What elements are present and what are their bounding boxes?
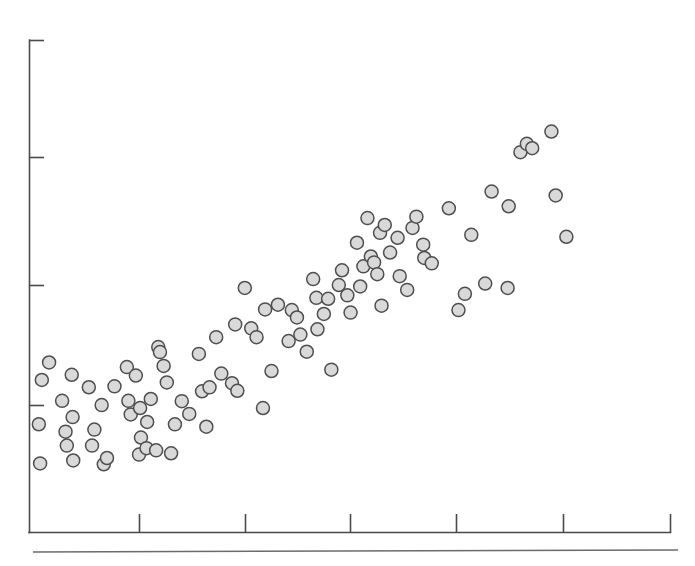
data-point	[65, 368, 78, 381]
x-tick-group	[140, 514, 671, 533]
data-point	[354, 280, 367, 293]
data-point	[336, 264, 349, 277]
data-point	[157, 359, 170, 372]
data-point	[425, 257, 438, 270]
data-point	[300, 345, 313, 358]
data-point	[393, 270, 406, 283]
data-point	[307, 273, 320, 286]
data-point	[108, 380, 121, 393]
data-point	[66, 411, 79, 424]
data-point	[141, 415, 154, 428]
data-point	[344, 306, 357, 319]
data-point	[168, 418, 181, 431]
data-point	[391, 231, 404, 244]
data-point	[59, 425, 72, 438]
data-point	[465, 228, 478, 241]
data-point	[442, 202, 455, 215]
data-point	[371, 268, 384, 281]
data-point	[192, 347, 205, 360]
data-point	[231, 384, 244, 397]
y-tick-group	[30, 41, 45, 406]
data-point	[67, 454, 80, 467]
data-point	[545, 125, 558, 138]
data-point	[122, 394, 135, 407]
data-point	[384, 246, 397, 259]
data-point	[56, 394, 69, 407]
data-point	[129, 369, 142, 382]
data-point	[86, 439, 99, 452]
data-point	[368, 256, 381, 269]
data-point	[417, 238, 430, 251]
data-point	[203, 381, 216, 394]
data-point	[229, 318, 242, 331]
data-point	[210, 331, 223, 344]
data-point	[485, 185, 498, 198]
data-point	[317, 307, 330, 320]
data-point	[215, 367, 228, 380]
data-point	[144, 392, 157, 405]
data-point	[82, 381, 95, 394]
data-point	[256, 402, 269, 415]
axes-group	[29, 40, 671, 533]
data-point	[502, 200, 515, 213]
data-point	[375, 299, 388, 312]
data-point	[310, 291, 323, 304]
data-point	[250, 331, 263, 344]
data-point	[150, 444, 163, 457]
data-point	[100, 452, 113, 465]
data-point	[95, 399, 108, 412]
data-point	[378, 218, 391, 231]
data-point	[153, 346, 166, 359]
data-point	[325, 363, 338, 376]
data-point	[294, 328, 307, 341]
data-point	[526, 142, 539, 155]
data-point	[165, 447, 178, 460]
data-point	[238, 281, 251, 294]
data-point	[322, 292, 335, 305]
data-point	[501, 281, 514, 294]
data-point	[60, 439, 73, 452]
data-point	[32, 418, 45, 431]
data-point	[361, 212, 374, 225]
baseline-rule	[33, 550, 678, 552]
data-point	[160, 376, 173, 389]
data-point	[350, 236, 363, 249]
data-point	[479, 277, 492, 290]
data-point-group	[32, 125, 573, 471]
data-point	[265, 365, 278, 378]
plot-canvas	[0, 0, 695, 566]
data-point	[175, 395, 188, 408]
data-point	[341, 289, 354, 302]
data-point	[271, 298, 284, 311]
data-point	[560, 230, 573, 243]
data-point	[43, 356, 56, 369]
data-point	[183, 407, 196, 420]
data-point	[410, 210, 423, 223]
scatter-plot-figure	[0, 0, 695, 566]
data-point	[549, 189, 562, 202]
data-point	[458, 287, 471, 300]
data-point	[259, 303, 272, 316]
data-point	[452, 304, 465, 317]
data-point	[88, 423, 101, 436]
data-point	[35, 373, 48, 386]
data-point	[401, 283, 414, 296]
data-point	[311, 323, 324, 336]
data-point	[290, 311, 303, 324]
data-point	[282, 335, 295, 348]
data-point	[200, 420, 213, 433]
data-point	[134, 402, 147, 415]
data-point	[34, 457, 47, 470]
